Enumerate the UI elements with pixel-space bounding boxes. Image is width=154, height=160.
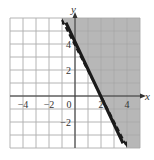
y-tick-label: −2	[60, 117, 71, 128]
inequality-graph: −4−202442−2 x y	[0, 0, 154, 160]
x-tick-label: 4	[125, 99, 130, 110]
x-tick-label: 2	[99, 99, 104, 110]
y-tick-label: 2	[66, 65, 71, 76]
x-tick-label: −2	[44, 99, 55, 110]
x-axis-label: x	[144, 90, 150, 102]
x-tick-label: 0	[67, 99, 72, 110]
x-tick-label: −4	[18, 99, 29, 110]
y-tick-label: 4	[66, 39, 71, 50]
y-axis-label: y	[70, 3, 76, 15]
